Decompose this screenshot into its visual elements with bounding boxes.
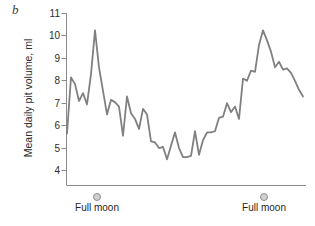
figure-panel-b: b Mean daily pit volume, ml 11 10 9 8 7 … — [0, 0, 315, 226]
full-moon-circle-icon — [260, 193, 268, 201]
full-moon-label-right: Full moon — [219, 202, 309, 213]
full-moon-circle-icon — [93, 193, 101, 201]
y-axis-ticks — [62, 14, 67, 171]
axis-lines — [67, 13, 307, 186]
data-series-line — [67, 30, 303, 159]
full-moon-label-left: Full moon — [52, 202, 142, 213]
full-moon-marker-left: Full moon — [52, 193, 142, 213]
full-moon-marker-right: Full moon — [219, 193, 309, 213]
